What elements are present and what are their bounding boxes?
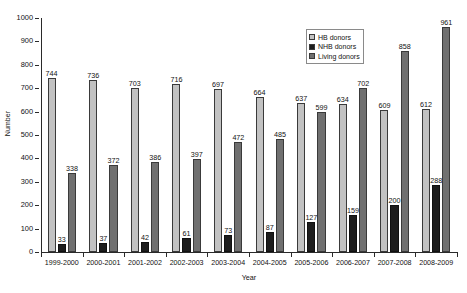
y-axis-tick-mark (35, 135, 39, 136)
bar-value-label: 703 (129, 79, 141, 88)
bar: 634 (339, 104, 347, 252)
bar-value-label: 599 (316, 103, 328, 112)
y-axis-tick-label: 700 (21, 83, 33, 92)
bar-value-label: 485 (274, 130, 286, 139)
bar: 42 (141, 242, 149, 252)
x-axis-tick-label: 2003-2004 (211, 259, 245, 267)
legend-label: NHB donors (318, 42, 356, 51)
bar-value-label: 397 (191, 150, 203, 159)
y-axis-tick-label: 1000 (17, 13, 33, 22)
bar-group: 66487485 (249, 18, 291, 252)
x-axis-tick-mark (291, 253, 292, 257)
bar: 200 (390, 205, 398, 252)
y-axis-tick-label: 500 (21, 130, 33, 139)
bar-value-label: 609 (378, 101, 390, 110)
bar: 637 (297, 103, 305, 252)
bar: 664 (256, 97, 264, 252)
x-axis-tick-mark (415, 253, 416, 257)
bar: 716 (172, 84, 180, 252)
y-axis-tick-label: 100 (21, 224, 33, 233)
bar-value-label: 200 (389, 196, 401, 205)
x-axis-title: Year (41, 273, 457, 282)
bar: 485 (276, 139, 284, 252)
bar-value-label: 33 (58, 235, 66, 244)
bar-value-label: 702 (357, 79, 369, 88)
legend-label: HB donors (318, 33, 351, 42)
x-axis-tick-marks (41, 253, 457, 257)
y-axis-tick-label: 300 (21, 177, 33, 186)
bar: 599 (317, 112, 325, 252)
x-axis-tick-mark (83, 253, 84, 257)
bar-group: 612288961 (415, 18, 457, 252)
bar: 472 (234, 142, 242, 252)
bar: 612 (422, 109, 430, 252)
bar-group: 69773472 (207, 18, 249, 252)
y-axis-tick-mark (35, 112, 39, 113)
bar-value-label: 159 (347, 206, 359, 215)
x-axis-tick-mark (249, 253, 250, 257)
bar: 697 (214, 89, 222, 252)
y-axis-tick-mark (35, 205, 39, 206)
bar-value-label: 87 (266, 223, 274, 232)
bar: 73 (224, 235, 232, 252)
bar: 338 (68, 173, 76, 252)
legend-swatch-icon (309, 53, 315, 59)
x-axis-tick-label: 2007-2008 (378, 259, 412, 267)
x-axis-tick-label: 2005-2006 (294, 259, 328, 267)
bar: 703 (131, 88, 139, 253)
bar-value-label: 61 (183, 229, 191, 238)
x-axis-tick-label: 2006-2007 (336, 259, 370, 267)
y-axis-tick-label: 200 (21, 200, 33, 209)
bar-chart: Number 01002003004005006007008009001000 … (0, 0, 467, 293)
bar-value-label: 288 (430, 176, 442, 185)
y-axis-tick-labels: 01002003004005006007008009001000 (0, 0, 41, 293)
bar-value-label: 858 (399, 42, 411, 51)
legend-item: HB donors (309, 33, 360, 42)
x-axis-tick-labels: 1999-20002000-20012001-20022002-20032003… (41, 259, 457, 271)
bar: 37 (99, 243, 107, 252)
x-axis-tick-label: 2001-2002 (128, 259, 162, 267)
bar-value-label: 664 (254, 88, 266, 97)
bar-group: 609200858 (374, 18, 416, 252)
bar: 858 (401, 51, 409, 252)
bar-value-label: 472 (232, 133, 244, 142)
x-axis-tick-mark (374, 253, 375, 257)
chart-legend: HB donorsNHB donorsLiving donors (306, 29, 364, 64)
plot-area: 7443333873637372703423867166139769773472… (41, 18, 457, 252)
bar: 397 (193, 159, 201, 252)
bar-value-label: 73 (224, 226, 232, 235)
legend-label: Living donors (318, 52, 360, 61)
y-axis-tick-mark (35, 229, 39, 230)
bar-group: 70342386 (124, 18, 166, 252)
y-axis-tick-mark (35, 18, 39, 19)
y-axis-tick-label: 0 (29, 247, 33, 256)
x-axis-tick-mark (332, 253, 333, 257)
x-axis-tick-label: 2004-2005 (253, 259, 287, 267)
bar-value-label: 961 (440, 18, 452, 27)
x-axis-tick-label: 2002-2003 (170, 259, 204, 267)
bar-group: 74433338 (41, 18, 83, 252)
bar-group: 73637372 (83, 18, 125, 252)
x-axis-tick-mark (124, 253, 125, 257)
y-axis-tick-mark (35, 158, 39, 159)
bar: 127 (307, 222, 315, 252)
bar-value-label: 634 (337, 95, 349, 104)
bar: 159 (349, 215, 357, 252)
x-axis-tick-label: 2000-2001 (86, 259, 120, 267)
bar-value-label: 736 (87, 71, 99, 80)
y-axis-tick-mark (35, 182, 39, 183)
y-axis-tick-label: 800 (21, 60, 33, 69)
bar-value-label: 386 (149, 153, 161, 162)
bar: 736 (89, 80, 97, 252)
x-axis-tick-mark (166, 253, 167, 257)
bar-value-label: 37 (99, 234, 107, 243)
y-axis-tick-mark (35, 65, 39, 66)
bar-value-label: 744 (46, 69, 58, 78)
legend-swatch-icon (309, 44, 315, 50)
legend-item: Living donors (309, 52, 360, 61)
bar-value-label: 716 (170, 75, 182, 84)
bar-value-label: 372 (108, 156, 120, 165)
bar-value-label: 697 (212, 80, 224, 89)
bar-value-label: 338 (66, 164, 78, 173)
y-axis-tick-label: 900 (21, 36, 33, 45)
